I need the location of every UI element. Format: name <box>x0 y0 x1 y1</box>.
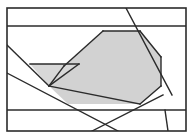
figure-container <box>0 0 193 139</box>
line-drawing-svg <box>0 0 193 139</box>
